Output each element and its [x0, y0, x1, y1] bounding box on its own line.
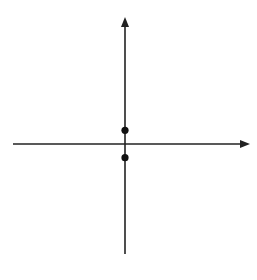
vertex-point-lower [121, 154, 128, 161]
y-axis-arrow-icon [121, 17, 129, 27]
x-axis-arrow-icon [240, 140, 250, 148]
hyperbola-graph [0, 0, 257, 280]
vertex-point-upper [121, 127, 128, 134]
axes [13, 17, 250, 254]
